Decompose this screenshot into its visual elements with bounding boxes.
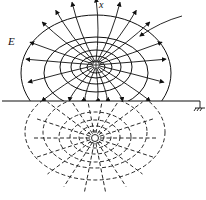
positive-charge-icon — [93, 62, 100, 69]
field-plot — [0, 0, 206, 200]
ground-symbol — [194, 101, 205, 111]
real-field-lines — [21, 0, 182, 131]
field-label: E — [8, 36, 15, 47]
axis-label: x — [99, 0, 103, 10]
image-charge-diagram: E x — [0, 0, 206, 200]
negative-image-charge-icon — [92, 135, 99, 142]
